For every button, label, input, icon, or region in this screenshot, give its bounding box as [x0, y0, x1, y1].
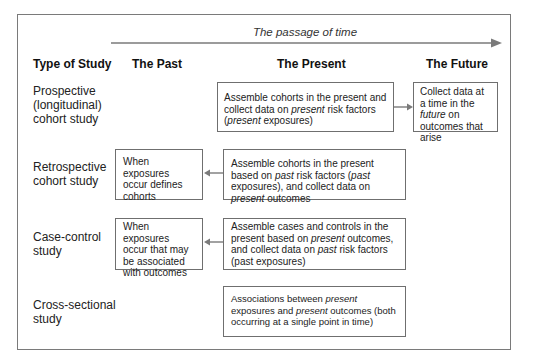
case-control-past-box: When exposures occur that may be associa…	[115, 218, 203, 270]
arrow-left-icon	[203, 237, 223, 247]
row-label-case-control: Case-control study	[33, 230, 101, 258]
arrow-right-icon	[394, 102, 414, 112]
row-label-cross-sectional: Cross-sectional study	[33, 298, 116, 326]
row-label-line: Cross-sectional	[33, 298, 116, 312]
header-type-of-study: Type of Study	[33, 57, 111, 71]
row-label-retrospective: Retrospective cohort study	[33, 160, 106, 188]
arrow-left-icon	[203, 168, 223, 178]
row-label-line: Case-control	[33, 230, 101, 244]
retrospective-past-box: When exposures occur defines cohorts	[115, 149, 203, 200]
header-the-future: The Future	[426, 57, 488, 71]
prospective-future-box: Collect data at a time in the future on …	[413, 82, 498, 132]
prospective-present-box: Assemble cohorts in the present and coll…	[217, 82, 394, 132]
retrospective-present-box: Assemble cohorts in the present based on…	[223, 149, 406, 200]
case-control-present-box: Assemble cases and controls in the prese…	[223, 218, 406, 270]
row-label-line: Prospective	[33, 84, 102, 98]
row-label-line: cohort study	[33, 174, 106, 188]
cross-sectional-present-box: Associations between present exposures a…	[223, 286, 406, 337]
header-the-present: The Present	[277, 57, 346, 71]
row-label-line: cohort study	[33, 112, 102, 126]
timeline-arrow-icon	[111, 37, 503, 49]
row-label-line: (longitudinal)	[33, 98, 102, 112]
row-label-line: study	[33, 244, 101, 258]
header-the-past: The Past	[132, 57, 182, 71]
row-label-line: Retrospective	[33, 160, 106, 174]
row-label-prospective: Prospective (longitudinal) cohort study	[33, 84, 102, 126]
row-label-line: study	[33, 312, 116, 326]
